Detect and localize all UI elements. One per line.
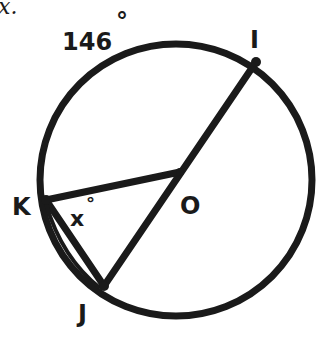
partial-text: x. bbox=[0, 0, 17, 19]
point-I bbox=[251, 57, 261, 67]
label-I: I bbox=[250, 26, 259, 54]
point-J bbox=[99, 281, 109, 291]
label-K: K bbox=[12, 193, 32, 221]
radius-OK bbox=[46, 172, 180, 200]
label-J: J bbox=[76, 300, 87, 328]
angle-label-x: x bbox=[70, 206, 84, 231]
point-K bbox=[41, 195, 51, 205]
geometry-diagram: x. 146 ° I K O J x ° bbox=[0, 0, 324, 346]
point-O bbox=[176, 168, 184, 176]
arc-measure-label: 146 bbox=[62, 28, 112, 56]
label-O: O bbox=[180, 192, 200, 220]
arc-degree-symbol: ° bbox=[116, 8, 128, 36]
angle-degree-symbol: ° bbox=[86, 193, 95, 214]
